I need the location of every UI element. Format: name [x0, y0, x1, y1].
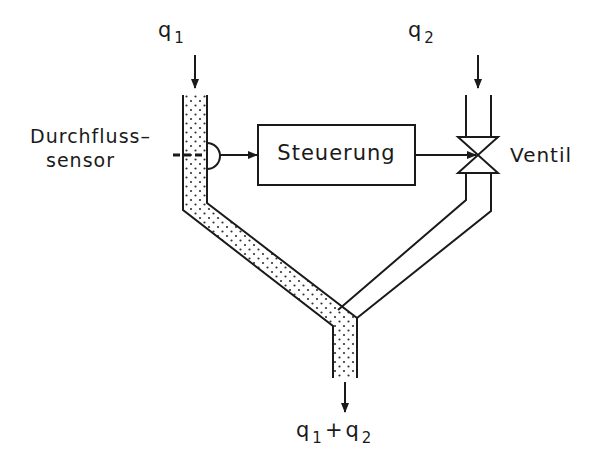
mixing-control-diagram	[0, 0, 590, 453]
q2-input-label: q2	[408, 18, 435, 42]
output-q2-subscript: 2	[362, 429, 373, 447]
q2-symbol: q	[408, 18, 422, 42]
q1-subscript: 1	[174, 29, 185, 47]
q2-subscript: 2	[424, 29, 435, 47]
q1-symbol: q	[158, 18, 172, 42]
flow-sensor-label-line1: Durchfluss–	[8, 124, 173, 148]
plus-sign: +	[325, 418, 344, 442]
output-q1-symbol: q	[296, 418, 310, 442]
output-q2-symbol: q	[346, 418, 360, 442]
output-q1-subscript: 1	[312, 429, 323, 447]
q1-input-label: q1	[158, 18, 185, 42]
controller-label: Steuerung	[258, 141, 415, 165]
valve-label: Ventil	[510, 143, 572, 167]
flow-sensor-label: Durchfluss– sensor	[8, 124, 173, 172]
flow-sensor-label-line2: sensor	[0, 148, 173, 172]
output-label: q1+q2	[296, 418, 372, 442]
